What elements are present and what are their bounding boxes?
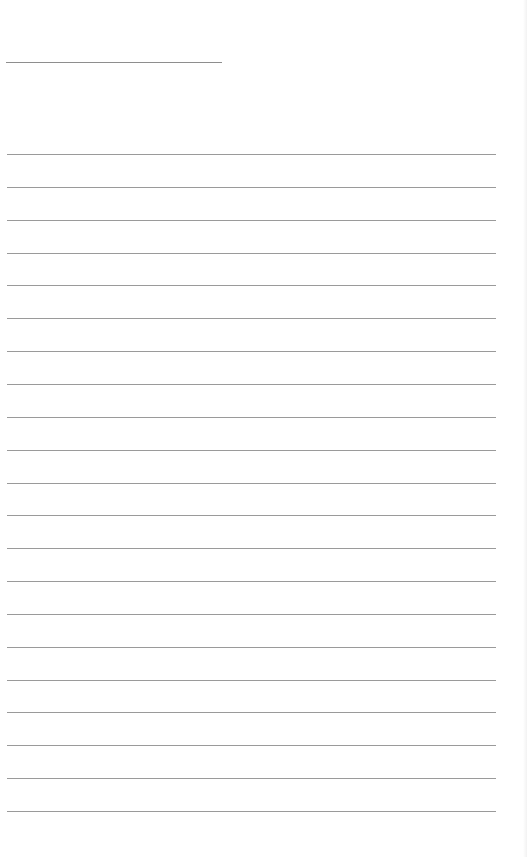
title-blank-line	[6, 62, 222, 63]
ruled-line	[7, 154, 496, 155]
ruled-line	[7, 548, 496, 549]
ruled-line	[7, 647, 496, 648]
ruled-line	[7, 351, 496, 352]
page-edge-shade	[523, 0, 527, 857]
ruled-line	[7, 811, 496, 812]
ruled-line	[7, 745, 496, 746]
ruled-line	[7, 318, 496, 319]
ruled-line	[7, 712, 496, 713]
ruled-line	[7, 778, 496, 779]
ruled-line	[7, 581, 496, 582]
ruled-line	[7, 450, 496, 451]
ruled-line	[7, 417, 496, 418]
lined-page	[0, 0, 527, 857]
ruled-line	[7, 220, 496, 221]
ruled-line	[7, 253, 496, 254]
ruled-line	[7, 515, 496, 516]
ruled-line	[7, 483, 496, 484]
ruled-line	[7, 614, 496, 615]
ruled-line	[7, 285, 496, 286]
ruled-line	[7, 384, 496, 385]
ruled-line	[7, 187, 496, 188]
ruled-line	[7, 680, 496, 681]
